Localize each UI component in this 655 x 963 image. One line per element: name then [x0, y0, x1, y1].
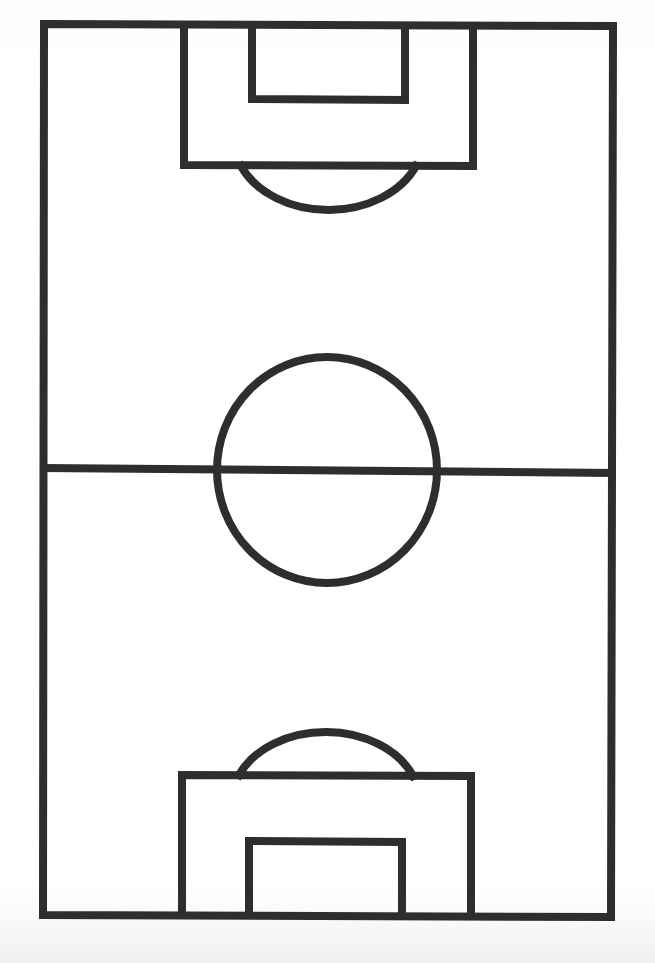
- top-goal-area: [252, 25, 405, 100]
- bottom-penalty-arc: [239, 732, 413, 776]
- pitch-diagram-page: Soccer pitch line diagram: [0, 0, 655, 963]
- top-penalty-arc: [241, 166, 416, 210]
- soccer-pitch: [0, 0, 655, 963]
- bottom-goal-area: [249, 841, 402, 916]
- halfway-line: [44, 468, 611, 473]
